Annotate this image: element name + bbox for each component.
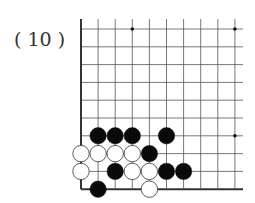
black-stone bbox=[107, 163, 123, 179]
black-stone bbox=[107, 128, 123, 144]
white-stone bbox=[73, 163, 89, 179]
black-stone bbox=[124, 128, 140, 144]
board-grid bbox=[81, 19, 243, 189]
star-point bbox=[233, 134, 237, 138]
star-point bbox=[131, 27, 135, 31]
white-stone bbox=[107, 145, 123, 161]
white-stone bbox=[124, 145, 140, 161]
white-stone bbox=[141, 163, 157, 179]
black-stone bbox=[175, 163, 191, 179]
go-board-diagram bbox=[0, 0, 255, 203]
white-stone bbox=[73, 145, 89, 161]
white-stone bbox=[124, 163, 140, 179]
white-stone bbox=[141, 181, 157, 197]
black-stone bbox=[90, 128, 106, 144]
white-stone bbox=[90, 145, 106, 161]
black-stone bbox=[158, 163, 174, 179]
black-stone bbox=[141, 145, 157, 161]
star-point bbox=[233, 27, 237, 31]
black-stone bbox=[158, 128, 174, 144]
black-stone bbox=[90, 181, 106, 197]
